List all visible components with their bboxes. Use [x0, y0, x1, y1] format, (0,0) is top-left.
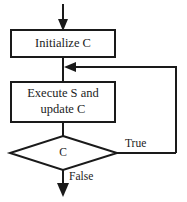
body-label-line2: update C [41, 102, 86, 116]
node-condition: C [10, 136, 117, 170]
edge-condition-true: True [117, 137, 176, 153]
condition-true-label: True [125, 137, 146, 149]
node-body: Execute S and update C [11, 82, 115, 122]
flowchart-diagram: Initialize C Execute S and update C C [0, 0, 187, 202]
condition-label: C [59, 146, 67, 158]
condition-false-label: False [69, 170, 93, 182]
edge-condition-false: False [57, 170, 93, 197]
node-initialize: Initialize C [11, 30, 115, 57]
edge-entry [58, 4, 68, 31]
loop-back-arrowhead [64, 62, 76, 72]
initialize-label: Initialize C [35, 36, 91, 50]
body-label-line1: Execute S and [27, 86, 99, 100]
flowchart-canvas: Initialize C Execute S and update C C [0, 0, 187, 202]
condition-false-arrowhead [57, 183, 69, 197]
